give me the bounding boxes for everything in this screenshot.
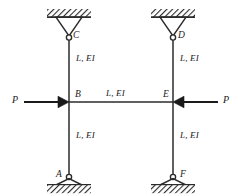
frame-diagram: C D B E A F L, EI L, EI L, EI L, EI L, E…: [0, 0, 237, 194]
support-pin-F: [151, 174, 195, 193]
load-arrow-P-right: [173, 96, 218, 108]
load-arrowhead-right: [173, 96, 184, 108]
member-label-BE: L, EI: [106, 89, 125, 98]
support-pin-C: [47, 9, 91, 40]
node-label-C: C: [73, 31, 79, 41]
hatch-ground-top-right: [151, 9, 195, 17]
node-label-B: B: [75, 90, 81, 100]
load-label-P-right: P: [223, 95, 229, 105]
pin-circle-C: [66, 35, 71, 40]
load-arrowhead-left: [58, 96, 69, 108]
node-label-E: E: [163, 90, 169, 100]
member-label-DE: L, EI: [180, 54, 199, 63]
support-pin-D: [151, 9, 195, 40]
hatch-ground-top-left: [47, 9, 91, 17]
node-label-A: A: [56, 170, 62, 180]
support-pin-A: [47, 174, 91, 193]
node-label-D: D: [178, 31, 185, 41]
hatch-ground-bottom-left: [47, 185, 91, 193]
hatch-ground-bottom-right: [151, 185, 195, 193]
load-label-P-left: P: [12, 95, 18, 105]
member-label-CB: L, EI: [76, 54, 95, 63]
pin-circle-D: [170, 35, 175, 40]
member-label-EF: L, EI: [180, 131, 199, 140]
load-arrow-P-left: [24, 96, 69, 108]
member-label-BA: L, EI: [76, 131, 95, 140]
node-label-F: F: [180, 170, 186, 180]
